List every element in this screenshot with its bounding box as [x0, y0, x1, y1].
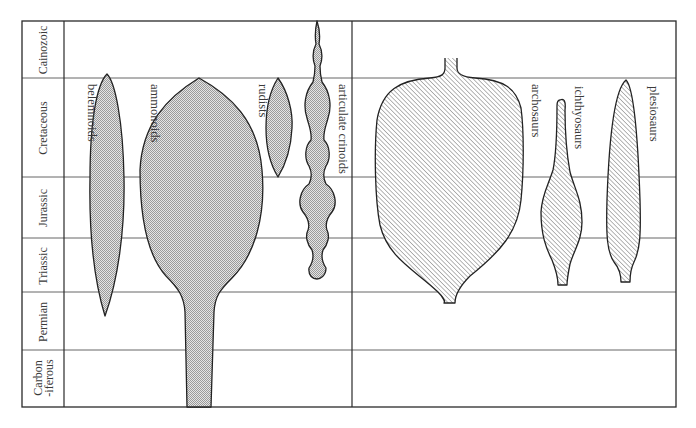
period-labels: Cainozoic Cretaceous Jurassic Triassic P…: [31, 26, 56, 397]
period-label-cretaceous: Cretaceous: [36, 101, 50, 155]
label-articulate-crinoids: articulate crinoids: [336, 84, 350, 174]
label-plesiosaurs: plesiosaurs: [647, 86, 661, 142]
spindle-diagram: Cainozoic Cretaceous Jurassic Triassic P…: [0, 0, 696, 428]
period-label-triassic: Triassic: [36, 247, 50, 285]
label-belemnoids: belemnoids: [85, 84, 99, 142]
period-label-carboniferous: Carbon -iferous: [31, 359, 56, 397]
label-archosaurs: archosaurs: [529, 84, 543, 138]
label-ammonoids: ammonoids: [148, 84, 162, 142]
label-rudists: rudists: [256, 84, 270, 117]
period-label-carboniferous-line2: -iferous: [42, 359, 56, 397]
spindle-archosaurs: [375, 58, 523, 303]
period-label-cainozoic: Cainozoic: [36, 26, 50, 75]
label-ichthyosaurs: ichthyosaurs: [572, 86, 586, 149]
period-label-jurassic: Jurassic: [36, 189, 50, 227]
spindle-plesiosaurs: [607, 80, 641, 282]
period-label-permian: Permian: [36, 302, 50, 342]
spindle-articulate-crinoids: [300, 21, 335, 279]
